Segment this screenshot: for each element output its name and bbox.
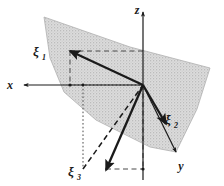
z-axis-tick-dot [141, 167, 144, 170]
vector-xi1-symbol: ξ [33, 44, 39, 59]
z-axis-label: z [134, 3, 140, 17]
box-corner-dot [82, 84, 85, 87]
vector-xi2-symbol: ξ [165, 112, 171, 127]
x-axis-tick-dot [68, 83, 71, 86]
y-axis-label: y [176, 159, 184, 173]
vector-xi3-symbol: ξ [68, 164, 74, 179]
x-axis-label: x [6, 78, 13, 92]
vector-xi3-subscript: 3 [76, 173, 81, 182]
vector-label-xi3: ξ 3 [68, 164, 81, 182]
vector-xi1-subscript: 1 [42, 53, 46, 62]
vector-label-xi1: ξ 1 [33, 44, 46, 62]
vector-diagram-figure: x z y ξ 1 ξ 2 ξ 3 [0, 0, 224, 186]
figure-canvas: x z y ξ 1 ξ 2 ξ 3 [0, 0, 224, 186]
vector-xi2-subscript: 2 [173, 121, 178, 130]
